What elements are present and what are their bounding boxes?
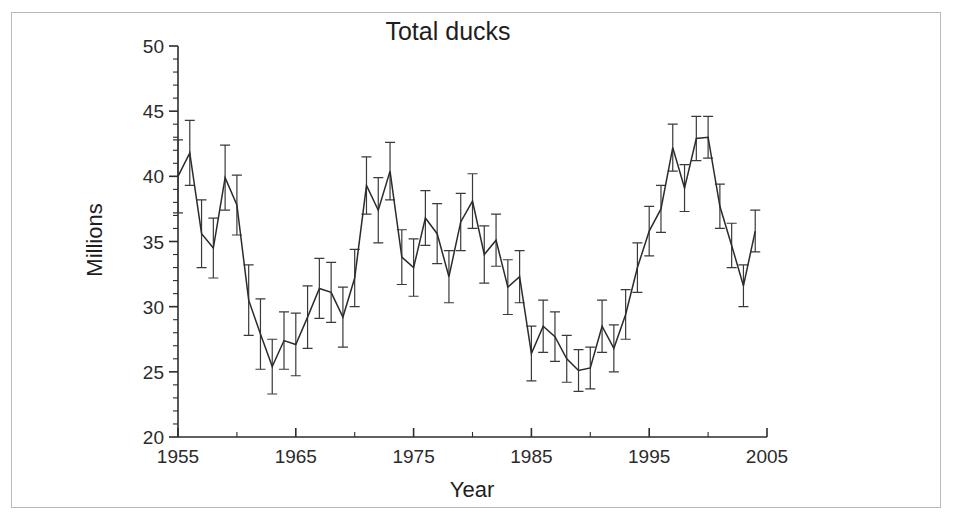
y-tick-label: 45 — [143, 101, 164, 122]
y-tick-label: 30 — [143, 297, 164, 318]
x-axis-title: Year — [450, 477, 494, 502]
x-tick-label: 1995 — [628, 446, 670, 467]
y-tick-label: 40 — [143, 166, 164, 187]
plot-layer: 20253035404550195519651975198519952005 — [143, 36, 788, 467]
y-tick-label: 20 — [143, 427, 164, 448]
y-axis-title: Millions — [82, 203, 107, 276]
x-tick-label: 1965 — [275, 446, 317, 467]
x-tick-label: 1955 — [157, 446, 199, 467]
x-tick-label: 1975 — [392, 446, 434, 467]
x-tick-label: 2005 — [746, 446, 788, 467]
total-ducks-chart: 20253035404550195519651975198519952005 T… — [0, 0, 953, 520]
figure-container: 20253035404550195519651975198519952005 T… — [0, 0, 953, 520]
data-series-line — [178, 137, 755, 370]
y-tick-label: 25 — [143, 362, 164, 383]
error-bars — [173, 116, 760, 394]
y-tick-label: 50 — [143, 36, 164, 57]
y-tick-label: 35 — [143, 232, 164, 253]
chart-title: Total ducks — [385, 17, 510, 45]
x-tick-label: 1985 — [510, 446, 552, 467]
